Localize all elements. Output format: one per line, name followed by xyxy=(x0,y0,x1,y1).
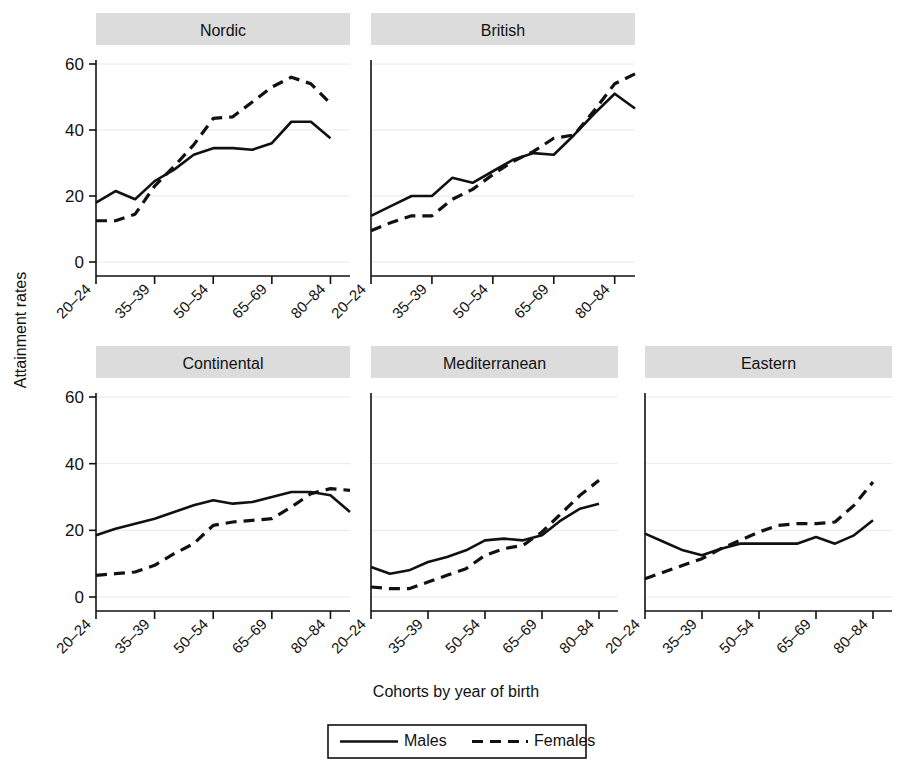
series-british-males xyxy=(371,94,635,216)
xtick-label-4: 80–84 xyxy=(571,280,613,322)
multi-panel-line-chart: Nordic020406020–2435–3950–5465–6980–84Br… xyxy=(0,0,913,780)
xtick-label-0: 20–24 xyxy=(602,615,644,657)
panel-british: British20–2435–3950–5465–6980–84 xyxy=(328,13,635,322)
series-nordic-males xyxy=(96,122,330,203)
ytick-label-20: 20 xyxy=(65,521,84,540)
xtick-label-3: 65–69 xyxy=(228,615,270,657)
legend-label-females: Females xyxy=(534,732,595,749)
xtick-label-2: 50–54 xyxy=(170,615,212,657)
series-continental-males xyxy=(96,492,350,535)
legend: MalesFemales xyxy=(328,725,595,758)
panel-eastern: Eastern20–2435–3950–5465–6980–84 xyxy=(602,346,892,657)
xtick-label-3: 65–69 xyxy=(228,280,270,322)
xtick-label-2: 50–54 xyxy=(170,280,212,322)
xtick-label-2: 50–54 xyxy=(442,615,484,657)
ytick-label-0: 0 xyxy=(75,253,84,272)
panel-title-british: British xyxy=(481,22,525,39)
ytick-label-0: 0 xyxy=(75,588,84,607)
xtick-label-2: 50–54 xyxy=(716,615,758,657)
panel-title-continental: Continental xyxy=(183,355,264,372)
xtick-label-0: 20–24 xyxy=(53,280,95,322)
xtick-label-1: 35–39 xyxy=(111,615,153,657)
xtick-label-1: 35–39 xyxy=(111,280,153,322)
ytick-label-60: 60 xyxy=(65,388,84,407)
xtick-label-4: 80–84 xyxy=(830,615,872,657)
xtick-label-0: 20–24 xyxy=(328,280,370,322)
series-british-females xyxy=(371,74,635,231)
xtick-label-4: 80–84 xyxy=(556,615,598,657)
panel-continental: Continental020406020–2435–3950–5465–6980… xyxy=(53,346,350,657)
ytick-label-20: 20 xyxy=(65,187,84,206)
ytick-label-40: 40 xyxy=(65,455,84,474)
series-eastern-males xyxy=(645,520,873,555)
xtick-label-3: 65–69 xyxy=(499,615,541,657)
panel-nordic: Nordic020406020–2435–3950–5465–6980–84 xyxy=(53,13,350,322)
panel-title-nordic: Nordic xyxy=(200,22,246,39)
figure-root: Nordic020406020–2435–3950–5465–6980–84Br… xyxy=(0,0,913,780)
xtick-label-3: 65–69 xyxy=(510,280,552,322)
panel-title-eastern: Eastern xyxy=(741,355,796,372)
xtick-label-4: 80–84 xyxy=(287,280,329,322)
ytick-label-40: 40 xyxy=(65,121,84,140)
series-mediterranean-females xyxy=(371,480,599,588)
legend-label-males: Males xyxy=(404,732,447,749)
xtick-label-1: 35–39 xyxy=(385,615,427,657)
xtick-label-2: 50–54 xyxy=(449,280,491,322)
y-axis-title: Attainment rates xyxy=(12,272,29,389)
xtick-label-1: 35–39 xyxy=(659,615,701,657)
panel-mediterranean: Mediterranean20–2435–3950–5465–6980–84 xyxy=(328,346,618,657)
xtick-label-3: 65–69 xyxy=(773,615,815,657)
xtick-label-0: 20–24 xyxy=(53,615,95,657)
panel-title-mediterranean: Mediterranean xyxy=(443,355,546,372)
series-mediterranean-males xyxy=(371,504,599,574)
ytick-label-60: 60 xyxy=(65,55,84,74)
xtick-label-4: 80–84 xyxy=(287,615,329,657)
xtick-label-0: 20–24 xyxy=(328,615,370,657)
xtick-label-1: 35–39 xyxy=(389,280,431,322)
x-axis-title: Cohorts by year of birth xyxy=(373,683,539,700)
